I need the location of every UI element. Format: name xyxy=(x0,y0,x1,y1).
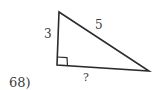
right-triangle xyxy=(57,12,149,71)
base-label: ? xyxy=(83,71,89,84)
hypotenuse-label: 5 xyxy=(95,18,103,32)
problem-number: 68) xyxy=(9,75,31,90)
triangle-figure: 3 5 ? 68) xyxy=(0,0,155,90)
side-left-label: 3 xyxy=(44,27,52,41)
